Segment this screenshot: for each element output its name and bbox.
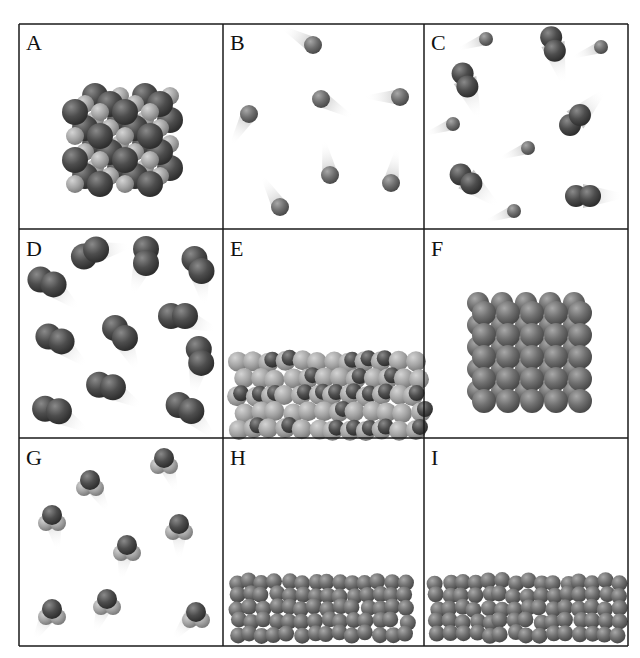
states-of-matter-figure: A B C D E F G H I	[0, 0, 640, 658]
panel-label-b: B	[230, 32, 245, 54]
panel-label-f: F	[431, 238, 443, 260]
panel-label-i: I	[431, 447, 438, 469]
panel-label-a: A	[26, 32, 42, 54]
panel-label-d: D	[26, 238, 42, 260]
panel-g-triatomic-gas	[26, 448, 210, 645]
panels-layer	[26, 21, 628, 646]
panel-e-molecular-liquid	[227, 350, 433, 441]
panel-label-c: C	[431, 32, 446, 54]
panel-label-g: G	[26, 447, 42, 469]
figure-canvas	[0, 0, 640, 658]
panel-label-e: E	[230, 238, 243, 260]
panel-c-gas-mixture	[423, 26, 623, 227]
panel-d-diatomic-gas	[27, 234, 221, 445]
panel-h-atomic-liquid	[229, 572, 416, 644]
panel-b-monatomic-gas	[225, 21, 409, 216]
panel-label-h: H	[230, 447, 246, 469]
panel-i-atomic-liquid	[427, 572, 628, 644]
panel-f-atomic-solid	[467, 292, 592, 413]
panel-a-ionic-solid	[62, 83, 183, 197]
